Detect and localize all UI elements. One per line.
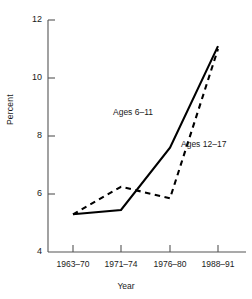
series-line-ages-12-17	[73, 49, 218, 214]
series-line-ages-6-11	[73, 46, 218, 214]
x-axis-ticks	[73, 245, 218, 252]
y-tick-label-10: 10	[20, 72, 42, 82]
y-axis-ticks	[48, 20, 55, 194]
y-axis-title: Percent	[5, 109, 15, 125]
x-tick-label-1988-91: 1988–91	[188, 259, 248, 269]
y-tick-label-8: 8	[20, 130, 42, 140]
x-axis-title: Year	[0, 281, 252, 291]
chart-container: Percent 12 10 8 6 4 1963–70 1971–74 1976…	[0, 0, 252, 299]
series-annotation-ages-12-17: Ages 12–17	[181, 139, 226, 149]
y-tick-label-6: 6	[20, 188, 42, 198]
y-tick-label-12: 12	[20, 14, 42, 24]
y-tick-label-4: 4	[20, 246, 42, 256]
series-annotation-ages-6-11: Ages 6–11	[113, 107, 153, 117]
